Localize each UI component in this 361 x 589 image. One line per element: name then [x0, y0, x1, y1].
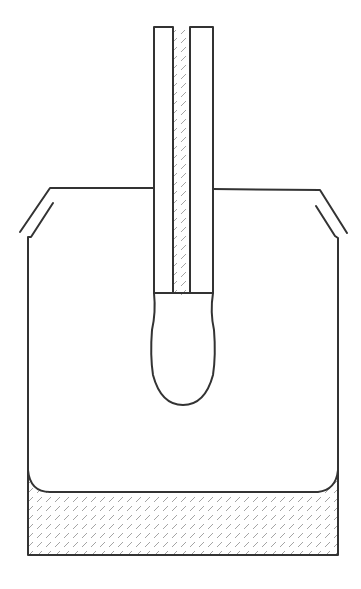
capillary-beaker-diagram — [0, 0, 361, 589]
diagram-canvas — [0, 0, 361, 589]
beaker-liquid — [28, 470, 338, 555]
tube-left-wall — [154, 27, 173, 293]
capillary-liquid — [174, 30, 189, 295]
liquid-bulb — [151, 293, 215, 405]
liquid-surface — [28, 470, 338, 492]
tube-right-wall — [190, 27, 213, 293]
beaker-outline — [20, 188, 154, 232]
beaker-right-rim — [213, 189, 347, 233]
